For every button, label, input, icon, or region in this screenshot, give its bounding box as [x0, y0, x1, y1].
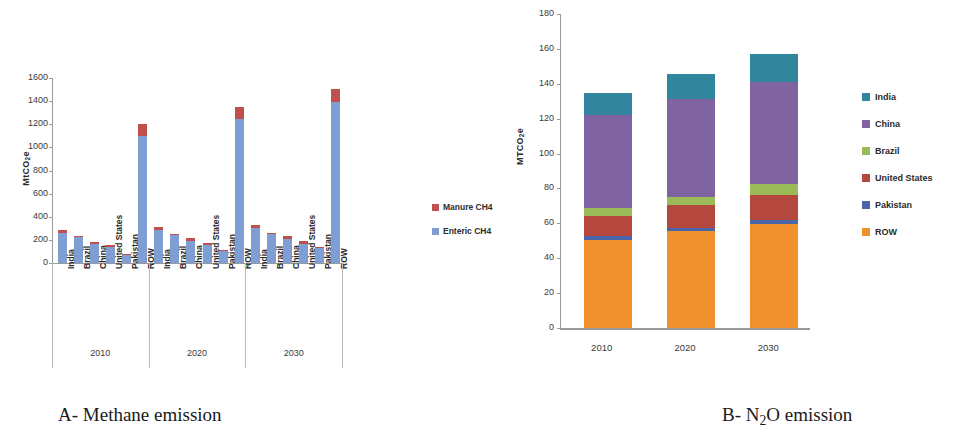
chart-a-bar-segment-enteric: [138, 136, 147, 263]
legend-swatch-icon: [862, 201, 870, 209]
chart-b-y-axis-label-tail: e: [515, 128, 525, 133]
chart-b-y-axis-label-subscript: 2: [518, 133, 525, 137]
chart-a-bar-segment-manure: [138, 124, 147, 136]
chart-b-y-tick-label: 140: [524, 78, 554, 88]
chart-a-category-label: ROW: [339, 248, 349, 269]
chart-a-bar: [235, 107, 244, 263]
chart-a-plot-area: 02004006008001000120014001600IndiaBrazil…: [52, 78, 342, 263]
chart-b-y-tick-label: 160: [524, 43, 554, 53]
chart-a-group-label: 2020: [149, 348, 246, 358]
chart-b-x-axis-line: [560, 328, 810, 330]
chart-b-legend-label: Pakistan: [875, 200, 912, 210]
chart-a-bar-segment-manure: [251, 225, 260, 228]
chart-a-group-label: 2030: [245, 348, 342, 358]
legend-swatch-icon: [432, 204, 439, 211]
chart-a-bar: [138, 124, 147, 263]
chart-b-legend-label: India: [875, 92, 896, 102]
chart-a-bar-segment-manure: [267, 233, 276, 234]
chart-b-y-tick-label: 180: [524, 8, 554, 18]
chart-b-bar-segment-pakistan: [750, 220, 798, 224]
chart-a-group-separator: [245, 263, 246, 368]
chart-a-legend: Manure CH4Enteric CH4: [432, 202, 493, 250]
chart-b-bar-segment-united-states: [584, 216, 632, 236]
chart-a-bar-segment-manure: [90, 242, 99, 244]
chart-a-group-separator: [149, 263, 150, 368]
chart-a-y-axis-label-subscript: 2: [24, 156, 31, 160]
chart-b-y-tick-label: 20: [524, 287, 554, 297]
chart-b-bar-segment-brazil: [584, 208, 632, 216]
chart-b-panel: MTCO2e 020406080100120140160180201020202…: [490, 0, 977, 438]
chart-a-bar-segment-manure: [58, 230, 67, 233]
chart-b-bar: [750, 54, 798, 328]
chart-b-bar-segment-row: [584, 240, 632, 328]
chart-a-y-tick-label: 600: [12, 188, 48, 198]
caption-b: B- N2O emission: [722, 404, 852, 429]
chart-a-y-tick-label: 1600: [12, 72, 48, 82]
chart-a-bar-segment-manure: [235, 107, 244, 119]
chart-a-y-tick-label: 1000: [12, 141, 48, 151]
chart-b-legend-label: Brazil: [875, 146, 900, 156]
chart-b-bar-segment-united-states: [750, 195, 798, 220]
chart-b-legend-item: Pakistan: [862, 200, 933, 210]
chart-b-category-label: 2010: [560, 342, 643, 353]
chart-b-legend-item: Brazil: [862, 146, 933, 156]
chart-a-y-tick-label: 0: [12, 257, 48, 267]
chart-b-bar-segment-row: [750, 224, 798, 328]
chart-a-bar-segment-manure: [331, 89, 340, 102]
chart-b-bar-segment-row: [667, 231, 715, 328]
legend-swatch-icon: [862, 93, 870, 101]
chart-a-group-label: 2010: [52, 348, 149, 358]
caption-b-prefix: B- N: [722, 404, 759, 425]
chart-a-y-axis-line: [52, 78, 53, 263]
legend-swatch-icon: [862, 228, 870, 236]
legend-swatch-icon: [432, 228, 439, 235]
chart-a-legend-item: Enteric CH4: [432, 226, 493, 236]
legend-swatch-icon: [862, 120, 870, 128]
chart-b-bar-segment-brazil: [750, 184, 798, 195]
chart-a-legend-label: Enteric CH4: [443, 226, 491, 236]
legend-swatch-icon: [862, 147, 870, 155]
chart-b-y-axis-label: MTCO2e: [515, 114, 526, 178]
chart-b-bar-segment-brazil: [667, 197, 715, 205]
chart-a-bar-segment-manure: [154, 227, 163, 230]
chart-a-panel: MtCO2e 02004006008001000120014001600Indi…: [0, 0, 490, 438]
legend-swatch-icon: [862, 174, 870, 182]
chart-b-legend-item: ROW: [862, 227, 933, 237]
chart-a-y-tick-label: 800: [12, 165, 48, 175]
chart-a-y-tick-label: 1200: [12, 118, 48, 128]
chart-b-bar-segment-united-states: [667, 205, 715, 228]
chart-a-legend-label: Manure CH4: [443, 202, 493, 212]
chart-b-bar-segment-india: [750, 54, 798, 82]
chart-b-legend-label: China: [875, 119, 900, 129]
chart-a-bar-segment-manure: [170, 234, 179, 235]
chart-a-bar-segment-enteric: [235, 119, 244, 263]
chart-b-y-tick-label: 0: [524, 322, 554, 332]
chart-a-bar: [331, 89, 340, 263]
chart-b-legend-item: China: [862, 119, 933, 129]
chart-a-y-tick-label: 200: [12, 234, 48, 244]
chart-a-bar-segment-manure: [74, 236, 83, 237]
chart-b-legend-label: United States: [875, 173, 933, 183]
chart-a-bar-segment-manure: [186, 238, 195, 241]
chart-b-category-label: 2030: [727, 342, 810, 353]
chart-a-y-tick-label: 1400: [12, 95, 48, 105]
chart-b-y-axis-line: [560, 14, 561, 328]
chart-b-bar-segment-pakistan: [667, 228, 715, 231]
chart-b-bar-segment-china: [667, 99, 715, 198]
chart-b-category-label: 2020: [643, 342, 726, 353]
chart-b-y-tick-label: 100: [524, 148, 554, 158]
chart-a-group-separator: [52, 263, 53, 368]
chart-b-bar: [667, 74, 715, 328]
chart-a-bar-segment-enteric: [331, 102, 340, 263]
chart-b-bar-segment-india: [667, 74, 715, 98]
chart-b-bar-segment-pakistan: [584, 236, 632, 240]
chart-b-legend-item: India: [862, 92, 933, 102]
chart-a-y-tick-label: 400: [12, 211, 48, 221]
chart-b-plot-area: 020406080100120140160180201020202030: [560, 14, 810, 328]
chart-a-legend-item: Manure CH4: [432, 202, 493, 212]
chart-b-legend-label: ROW: [875, 227, 897, 237]
figure-root: MtCO2e 02004006008001000120014001600Indi…: [0, 0, 977, 438]
chart-b-legend: IndiaChinaBrazilUnited StatesPakistanROW: [862, 92, 933, 254]
chart-b-legend-item: United States: [862, 173, 933, 183]
chart-b-y-tick-label: 120: [524, 113, 554, 123]
